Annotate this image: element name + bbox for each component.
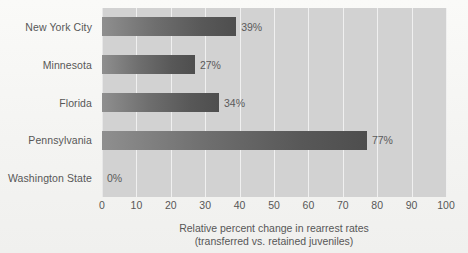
plot-area: 39%27%34%77%0% <box>102 8 446 197</box>
x-tick-100: 100 <box>437 199 455 212</box>
x-tick-20: 20 <box>165 199 177 212</box>
y-axis-label-pennsylvania: Pennsylvania <box>0 134 92 146</box>
x-tick-60: 60 <box>303 199 315 212</box>
x-axis-title-line-2: (transferred vs. retained juveniles) <box>102 235 446 248</box>
x-tick-40: 40 <box>234 199 246 212</box>
y-axis-label-minnesota: Minnesota <box>0 59 92 71</box>
x-tick-80: 80 <box>371 199 383 212</box>
bar-florida <box>102 93 219 112</box>
y-axis-category-labels: New York CityMinnesotaFloridaPennsylvani… <box>0 8 96 197</box>
y-axis-label-new-york-city: New York City <box>0 21 92 33</box>
gridline-100 <box>446 8 447 197</box>
bar-new-york-city <box>102 17 236 36</box>
x-tick-70: 70 <box>337 199 349 212</box>
bar-chart: New York CityMinnesotaFloridaPennsylvani… <box>0 0 468 253</box>
x-tick-10: 10 <box>131 199 143 212</box>
x-axis-title: Relative percent change in rearrest rate… <box>102 222 446 248</box>
gridline-80 <box>377 8 378 197</box>
gridline-60 <box>308 8 309 197</box>
gridline-70 <box>343 8 344 197</box>
gridline-90 <box>412 8 413 197</box>
bar-value-label-pennsylvania: 77% <box>372 134 393 146</box>
bar-value-label-florida: 34% <box>224 97 245 109</box>
x-tick-30: 30 <box>199 199 211 212</box>
bar-value-label-new-york-city: 39% <box>241 21 262 33</box>
x-axis-tick-labels: 0102030405060708090100 <box>102 199 446 215</box>
x-tick-0: 0 <box>99 199 105 212</box>
bar-minnesota <box>102 55 195 74</box>
bar-value-label-minnesota: 27% <box>200 59 221 71</box>
y-axis-label-washington-state: Washington State <box>0 172 92 184</box>
x-axis-title-line-1: Relative percent change in rearrest rate… <box>102 222 446 235</box>
x-tick-50: 50 <box>268 199 280 212</box>
bar-value-label-washington-state: 0% <box>107 172 122 184</box>
gridline-50 <box>274 8 275 197</box>
bar-pennsylvania <box>102 131 367 150</box>
y-axis-label-florida: Florida <box>0 97 92 109</box>
x-tick-90: 90 <box>406 199 418 212</box>
